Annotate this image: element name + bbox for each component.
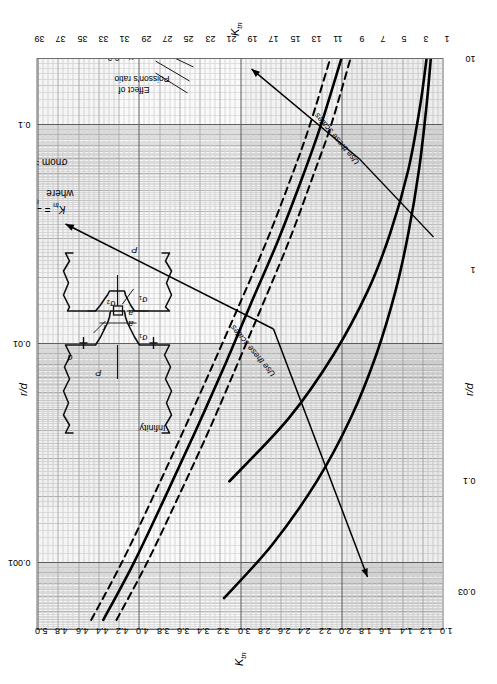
tick-right-3: 3 — [423, 34, 428, 44]
formula-ktn: Ktn = σ₁ σnom — [36, 197, 65, 221]
tick-right-35: 35 — [77, 34, 87, 44]
tick-right-29: 29 — [141, 34, 151, 44]
tick-right-37: 37 — [55, 34, 65, 44]
poisson-heading-line1: Effect of — [118, 85, 149, 95]
inset-label-sigma2: σ₂ — [106, 299, 115, 309]
tick-left-2.0: 2.0 — [338, 626, 351, 636]
tick-left-3.4: 3.4 — [196, 626, 209, 636]
tick-left-4.2: 4.2 — [115, 626, 128, 636]
tick-left-2.2: 2.2 — [318, 626, 331, 636]
tick-right-25: 25 — [183, 34, 193, 44]
inset-label-infinity: Infinity — [139, 423, 165, 433]
formula-ktn-equals: = — [44, 204, 50, 215]
tick-right-33: 33 — [98, 34, 108, 44]
curve-3 — [224, 59, 431, 598]
tick-left-3.2: 3.2 — [217, 626, 230, 636]
leader-poisson-2 — [155, 58, 193, 67]
tick-bottom-10: 10 — [465, 54, 475, 64]
tick-left-3.6: 3.6 — [176, 626, 189, 636]
formula-ktn-fraction: σ₁ σnom — [36, 197, 41, 221]
tick-right-15: 15 — [290, 34, 300, 44]
tick-left-1.8: 1.8 — [358, 626, 371, 636]
formula-where: where — [46, 188, 73, 199]
tick-right-17: 17 — [268, 34, 278, 44]
figure-frame: Infinity r d a a P P σ₁ σ₁ σ₂ Ktn = σ₁ σ… — [0, 0, 497, 684]
poisson-heading-line2: Poisson's ratio — [114, 74, 169, 84]
inset-label-P-bottom: P — [131, 245, 137, 255]
inset-label-a-top: a — [128, 319, 133, 329]
tick-top-0.1: 0.1 — [17, 120, 30, 130]
tick-left-4.6: 4.6 — [75, 626, 88, 636]
poisson-item-0: ν = 0.2 — [107, 58, 133, 63]
inset-label-sigma1-bottom: σ₁ — [138, 295, 147, 305]
tick-bottom-0.03: 0.03 — [457, 587, 475, 597]
formula-nom-equals: = — [36, 157, 39, 168]
tick-left-4.4: 4.4 — [95, 626, 108, 636]
axis-title-right-sub: tn — [234, 22, 243, 28]
tick-bottom-0.1: 0.1 — [462, 476, 475, 486]
tick-left-3.0: 3.0 — [237, 626, 250, 636]
tick-right-27: 27 — [162, 34, 172, 44]
tick-left-2.4: 2.4 — [298, 626, 311, 636]
axis-title-left-text: K — [232, 659, 244, 666]
tick-left-1.6: 1.6 — [379, 626, 392, 636]
tick-right-23: 23 — [205, 34, 215, 44]
tick-left-4.0: 4.0 — [136, 626, 149, 636]
formula-ktn-lhs: K — [58, 204, 65, 215]
formula-ktn-denominator: σnom — [36, 197, 41, 209]
tick-bottom-1: 1 — [470, 265, 475, 275]
formula-ktn-lhs-sub: tn — [53, 202, 59, 209]
axis-title-top: r/d — [16, 383, 28, 396]
tick-left-2.6: 2.6 — [277, 626, 290, 636]
axis-title-bottom: r/d — [462, 383, 474, 396]
inset-label-d: d — [67, 353, 72, 363]
inset-label-sigma1-top: σ₁ — [138, 333, 147, 343]
plot-area: Infinity r d a a P P σ₁ σ₁ σ₂ Ktn = σ₁ σ… — [36, 58, 443, 630]
axis-title-left: Ktn — [232, 652, 247, 666]
tick-left-1.4: 1.4 — [399, 626, 412, 636]
formula-nom-lhs: σnom — [41, 157, 67, 168]
tick-left-3.8: 3.8 — [156, 626, 169, 636]
poisson-eq-0: = 0.2 — [107, 58, 129, 63]
leader-use-scales-secondary-2 — [359, 159, 433, 237]
tick-right-19: 19 — [247, 34, 257, 44]
tick-left-1.2: 1.2 — [419, 626, 432, 636]
inset-label-P-top: P — [95, 368, 101, 378]
arrow-use-scales-secondary — [251, 69, 260, 77]
tick-left-2.8: 2.8 — [257, 626, 270, 636]
tick-left-1.0: 1.0 — [439, 626, 452, 636]
inset-label-r: r — [102, 323, 105, 333]
tick-top-0.001: 0.001 — [7, 558, 30, 568]
axis-title-right: Ktn — [228, 22, 243, 36]
axis-title-right-text: K — [228, 29, 240, 36]
tick-right-9: 9 — [359, 34, 364, 44]
tick-right-1: 1 — [444, 34, 449, 44]
rotated-chart-stage: Infinity r d a a P P σ₁ σ₁ σ₂ Ktn = σ₁ σ… — [0, 0, 497, 684]
tick-top-0.01: 0.01 — [12, 339, 30, 349]
tick-right-13: 13 — [311, 34, 321, 44]
tick-right-31: 31 — [119, 34, 129, 44]
notched-bar-diagram — [43, 245, 191, 441]
inset-label-a-bottom: a — [128, 308, 133, 318]
tick-left-5.0: 5.0 — [34, 626, 47, 636]
tick-right-11: 11 — [333, 34, 342, 44]
formula-sigma-nom: σnom = P πd²/4 — [36, 150, 67, 174]
leader-use-scales-primary — [273, 329, 367, 577]
tick-right-5: 5 — [401, 34, 406, 44]
formula-ktn-numerator: σ₁ — [36, 209, 41, 222]
tick-right-39: 39 — [34, 34, 44, 44]
tick-right-7: 7 — [380, 34, 385, 44]
tick-left-4.8: 4.8 — [55, 626, 68, 636]
axis-title-left-sub: tn — [238, 652, 247, 658]
